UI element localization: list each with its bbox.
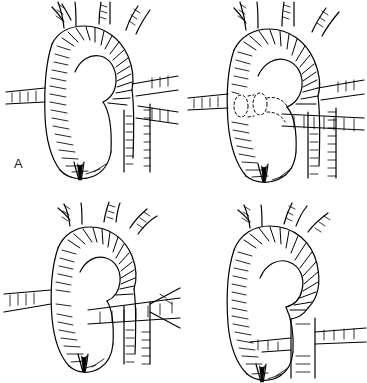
panel-b-illustration [184, 0, 367, 191]
panel-a: A [0, 0, 183, 191]
aortic-arch-figure: A [0, 0, 367, 383]
panel-a-illustration [0, 0, 183, 191]
panel-c: C [0, 192, 183, 383]
panel-d: D [184, 192, 367, 383]
panel-b: B [184, 0, 367, 191]
panel-d-illustration [184, 192, 367, 383]
panel-label-a: A [14, 157, 23, 170]
panel-c-illustration [0, 192, 183, 383]
